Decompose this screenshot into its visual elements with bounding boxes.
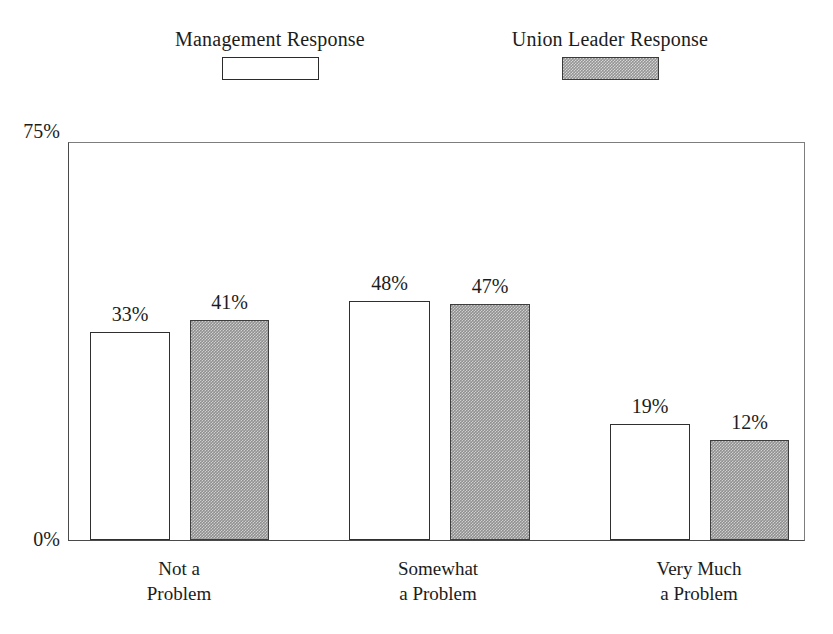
bar-union-not-a-problem[interactable] <box>190 320 269 540</box>
x-axis-category-label-not-a-problem: Not a Problem <box>89 556 269 606</box>
x-axis-category-label-somewhat-a-problem: Somewhat a Problem <box>348 556 528 606</box>
y-axis-tick-label-min: 0% <box>8 528 60 551</box>
gray-filled-rectangle-swatch <box>562 57 659 80</box>
bar-management-not-a-problem[interactable] <box>90 332 170 540</box>
plot-area: 33% 41% 48% 47% 19% 12% <box>68 142 805 541</box>
legend-label-union-leader-response: Union Leader Response <box>480 28 740 51</box>
chart-legend: Management Response Union Leader Respons… <box>0 0 833 100</box>
open-rectangle-swatch <box>222 57 319 80</box>
bar-management-somewhat-a-problem[interactable] <box>349 301 430 540</box>
x-axis-category-label-very-much-a-problem: Very Much a Problem <box>609 556 789 606</box>
bar-chart: Management Response Union Leader Respons… <box>0 0 833 634</box>
x-axis-category-line2: a Problem <box>609 581 789 606</box>
bar-management-very-much-a-problem[interactable] <box>610 424 690 540</box>
bar-value-label-management-not-a-problem: 33% <box>90 303 170 326</box>
x-axis-category-line1: Not a <box>89 556 269 581</box>
x-axis-category-line2: a Problem <box>348 581 528 606</box>
x-axis-category-line2: Problem <box>89 581 269 606</box>
x-axis-category-line1: Somewhat <box>348 556 528 581</box>
bar-value-label-union-not-a-problem: 41% <box>190 291 269 314</box>
bar-union-very-much-a-problem[interactable] <box>710 440 789 540</box>
y-axis-tick-label-max: 75% <box>8 120 60 143</box>
bar-union-somewhat-a-problem[interactable] <box>450 304 530 540</box>
bar-value-label-management-somewhat-a-problem: 48% <box>349 272 430 295</box>
legend-label-management-response: Management Response <box>140 28 400 51</box>
legend-item-management-response: Management Response <box>140 28 400 80</box>
legend-item-union-leader-response: Union Leader Response <box>480 28 740 80</box>
bar-value-label-management-very-much-a-problem: 19% <box>610 395 690 418</box>
bar-value-label-union-somewhat-a-problem: 47% <box>450 275 530 298</box>
x-axis-category-line1: Very Much <box>609 556 789 581</box>
bar-value-label-union-very-much-a-problem: 12% <box>710 411 789 434</box>
